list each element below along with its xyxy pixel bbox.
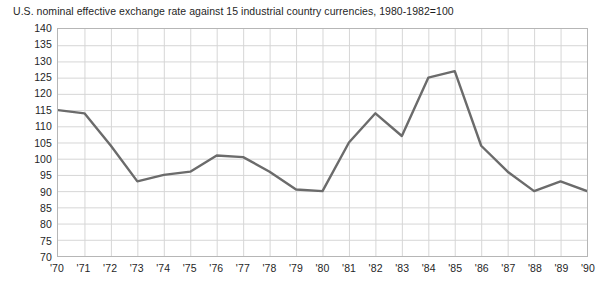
x-tick-label: '90 bbox=[568, 263, 605, 274]
x-axis-tick-labels: '70'71'72'73'74'75'76'77'78'79'80'81'82'… bbox=[0, 0, 605, 284]
exchange-rate-line-chart: U.S. nominal effective exchange rate aga… bbox=[0, 0, 605, 284]
